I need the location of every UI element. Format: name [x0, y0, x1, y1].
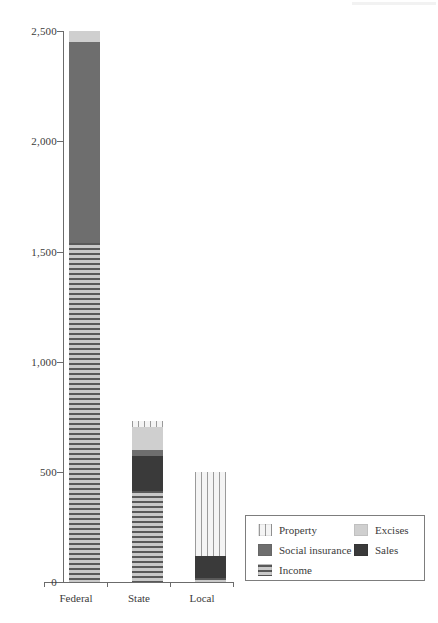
y-axis-label-2500: 2,500: [31, 26, 57, 37]
bar-local[interactable]: [195, 472, 226, 582]
x-axis-tick-federal-state: [107, 582, 108, 587]
dark-gray-swatch-icon: [354, 544, 368, 556]
legend-label-income: Income: [279, 564, 312, 576]
y-axis-label-500: 500: [40, 467, 57, 478]
legend-item-excises[interactable]: Excises: [354, 524, 409, 536]
y-axis-label-2000: 2,000: [31, 136, 57, 147]
horizontal-lines-swatch-icon: [258, 564, 272, 576]
bar-segment-state-sales: [132, 456, 163, 491]
y-axis-tick-2000: [57, 141, 64, 142]
bar-segment-federal-excises: [69, 31, 100, 42]
x-axis-tick-right: [233, 582, 234, 587]
legend-label-property: Property: [279, 524, 317, 536]
vertical-lines-swatch-icon: [258, 524, 272, 536]
legend: Property Excises Social insurance Sales …: [245, 515, 425, 581]
bar-segment-local-income: [195, 578, 226, 582]
y-axis-label-1000: 1,000: [31, 357, 57, 368]
medium-gray-swatch-icon: [258, 544, 272, 556]
bar-state[interactable]: [132, 421, 163, 582]
y-axis-tick-1500: [57, 252, 64, 253]
bar-segment-federal-income: [69, 243, 100, 582]
y-axis-tick-2500: [57, 31, 64, 32]
y-axis-line: [63, 31, 64, 582]
legend-item-sales[interactable]: Sales: [354, 544, 398, 556]
x-axis-label-federal: Federal: [46, 592, 106, 604]
scan-artifact: [352, 2, 436, 5]
x-axis-line: [44, 582, 233, 583]
y-axis-label-0: 0: [51, 577, 57, 588]
legend-label-sales: Sales: [375, 544, 398, 556]
light-gray-swatch-icon: [354, 524, 368, 536]
bar-federal[interactable]: [69, 31, 100, 582]
bar-segment-state-property: [132, 421, 163, 427]
legend-item-social-insurance[interactable]: Social insurance: [258, 544, 351, 556]
legend-item-income[interactable]: Income: [258, 564, 312, 576]
legend-label-social-insurance: Social insurance: [279, 544, 351, 556]
legend-item-property[interactable]: Property: [258, 524, 317, 536]
y-axis-tick-0: [57, 582, 64, 583]
y-axis-tick-500: [57, 472, 64, 473]
x-axis-tick-left: [44, 582, 45, 587]
legend-label-excises: Excises: [375, 524, 409, 536]
x-axis-label-state: State: [109, 592, 169, 604]
bar-segment-state-income: [132, 491, 163, 582]
bar-segment-local-sales: [195, 556, 226, 578]
bar-segment-federal-social-insurance: [69, 42, 100, 243]
x-axis-tick-state-local: [170, 582, 171, 587]
bar-segment-state-social-insurance: [132, 450, 163, 456]
bar-segment-state-excises: [132, 427, 163, 450]
stacked-bar-chart: 2,500 2,000 1,500 1,000 500 0 Federal St…: [0, 0, 438, 623]
bar-segment-local-property: [195, 472, 226, 556]
x-axis-label-local: Local: [172, 592, 232, 604]
y-axis-label-1500: 1,500: [31, 247, 57, 258]
y-axis-tick-1000: [57, 362, 64, 363]
